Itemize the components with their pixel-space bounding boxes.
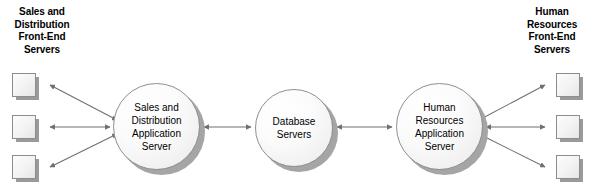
database-servers[interactable]: Database Servers <box>255 89 333 167</box>
ellipse-face: Database Servers <box>255 89 333 167</box>
right-front-end-server-3[interactable] <box>556 155 580 179</box>
left-front-end-server-1[interactable] <box>12 73 36 97</box>
server-box-face <box>12 115 36 139</box>
server-box-face <box>556 155 580 179</box>
right-front-end-server-1[interactable] <box>556 73 580 97</box>
left-front-end-server-3[interactable] <box>12 155 36 179</box>
server-box-face <box>12 155 36 179</box>
architecture-diagram: Sales and Distribution Front-End Servers… <box>0 0 595 191</box>
server-box-face <box>12 73 36 97</box>
group-heading-human-resources: Human Resources Front-End Servers <box>509 6 595 56</box>
right-front-end-server-2[interactable] <box>556 115 580 139</box>
connector-right-1 <box>479 85 545 120</box>
connector-left-3 <box>50 134 117 167</box>
human-resources-application-server[interactable]: Human Resources Application Server <box>396 83 483 170</box>
ellipse-face: Human Resources Application Server <box>396 83 483 170</box>
node-label-database-servers: Database Servers <box>267 115 322 141</box>
server-box-face <box>556 115 580 139</box>
connector-left-1 <box>50 85 117 120</box>
ellipse-face: Sales and Distribution Application Serve… <box>113 83 200 170</box>
server-box-face <box>556 73 580 97</box>
group-heading-sales-distribution: Sales and Distribution Front-End Servers <box>0 6 84 56</box>
node-label-sales-distribution: Sales and Distribution Application Serve… <box>125 101 187 153</box>
connector-right-3 <box>479 134 545 167</box>
node-label-human-resources: Human Resources Application Server <box>409 101 470 153</box>
sales-distribution-application-server[interactable]: Sales and Distribution Application Serve… <box>113 83 200 170</box>
left-front-end-server-2[interactable] <box>12 115 36 139</box>
